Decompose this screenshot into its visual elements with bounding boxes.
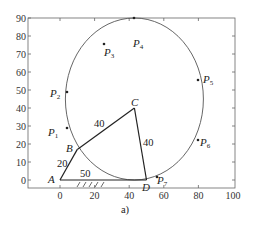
label-p4: P4	[132, 37, 144, 51]
length-ad: 50	[80, 168, 91, 179]
x-tick-40: 40	[124, 190, 134, 201]
x-tick-20: 20	[90, 190, 100, 201]
label-p1: P1	[47, 126, 59, 140]
marker-p1	[66, 127, 69, 130]
x-tick-80: 80	[193, 190, 203, 201]
y-tick-0: 0	[21, 175, 26, 186]
marker-p3	[103, 43, 106, 46]
ground-hatch	[77, 182, 104, 187]
y-tick-40: 40	[16, 103, 26, 114]
y-tick-80: 80	[16, 31, 26, 42]
y-tick-60: 60	[16, 67, 26, 78]
y-tick-30: 30	[16, 121, 26, 132]
marker-p6	[197, 139, 200, 142]
marker-p4	[133, 17, 136, 20]
label-p2: P2	[49, 87, 61, 101]
marker-p2	[66, 91, 69, 94]
label-p3: P3	[103, 46, 115, 60]
label-p5: P5	[202, 73, 214, 87]
y-tick-10: 10	[16, 157, 26, 168]
length-cd: 40	[143, 137, 154, 148]
figure-caption: a)	[121, 204, 130, 216]
label-joint-b: B	[66, 142, 73, 154]
label-joint-a: A	[47, 173, 55, 185]
label-p6: P6	[199, 136, 211, 150]
link-bc	[77, 108, 134, 149]
y-tick-labels: 0 10 20 30 40 50 60 70 80 90	[16, 13, 26, 186]
marker-p5	[197, 79, 200, 82]
label-joint-d: D	[141, 181, 150, 193]
four-bar-linkage-diagram: 0 10 20 30 40 50 60 70 80 90 0 20 40 60 …	[0, 0, 253, 226]
label-p7: P7	[156, 174, 168, 188]
y-tick-90: 90	[16, 13, 26, 24]
x-tick-0: 0	[58, 190, 63, 201]
label-joint-c: C	[131, 96, 139, 108]
y-tick-20: 20	[16, 139, 26, 150]
length-bc: 40	[94, 118, 105, 129]
x-tick-100: 100	[226, 190, 241, 201]
y-tick-50: 50	[16, 85, 26, 96]
y-tick-70: 70	[16, 49, 26, 60]
x-tick-60: 60	[159, 190, 169, 201]
length-ab: 20	[57, 158, 68, 169]
